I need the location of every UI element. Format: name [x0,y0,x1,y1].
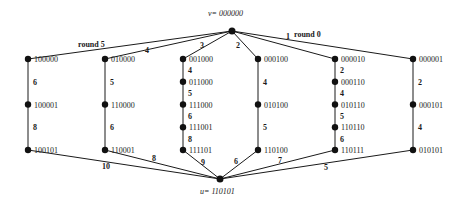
node-label: 110001 [111,146,135,155]
edge-label: 8 [188,135,192,144]
node [332,101,338,107]
node-label: 100101 [34,146,58,155]
node-label: 011000 [189,78,213,87]
labels-layer: 68100000100001100101round 51056010000110… [33,30,443,172]
top-edge-label: 4 [145,46,149,55]
node-label: 010100 [264,101,288,110]
node-label: 000110 [341,78,365,87]
node [332,56,338,62]
top-edge-label: 3 [200,41,204,50]
edge-label: 4 [340,89,344,98]
bottom-edge-label: 8 [152,154,156,163]
node [25,56,31,62]
top-edge-label: round 5 [78,40,105,49]
edge-label: 4 [418,123,422,132]
node [25,147,31,153]
edge-top-col-5 [232,31,413,59]
bottom-node [217,176,224,183]
node [180,147,186,153]
node [180,124,186,130]
node [255,147,261,153]
top-edge-label: 1 [286,32,290,41]
edge-label: 6 [110,123,114,132]
node-label: 110110 [341,123,364,132]
edge-label: 2 [340,66,344,75]
node [332,79,338,85]
node [102,147,108,153]
node [255,101,261,107]
edge-label: 5 [263,123,267,132]
node-label: 010110 [341,101,365,110]
node-label: 100000 [34,55,58,64]
node [180,79,186,85]
top-edge-label: 2 [236,41,240,50]
node-label: 110100 [264,146,288,155]
node-label: 010000 [111,55,135,64]
node [180,101,186,107]
node [102,101,108,107]
edge-label: 6 [188,112,192,121]
node [410,147,416,153]
node-label: 100001 [34,101,58,110]
edge-label: 5 [188,89,192,98]
node [332,124,338,130]
top-edge-label: round 0 [294,30,321,39]
edge-label: 5 [340,112,344,121]
edge-label: 5 [110,78,114,87]
edge-label: 4 [263,78,267,87]
edge-label: 6 [33,78,37,87]
node-label: 001000 [189,55,213,64]
node-label: 111101 [189,146,212,155]
node-label: 110111 [341,146,364,155]
top-node-label: v= 000000 [208,9,243,18]
edge-label: 6 [340,135,344,144]
bottom-edge-label: 6 [234,157,238,166]
edge-label: 8 [33,123,37,132]
node [255,56,261,62]
node [102,56,108,62]
node-label: 110000 [111,101,135,110]
node-label: 010101 [419,146,443,155]
top-node [229,28,236,35]
node [410,56,416,62]
edge-label: 4 [188,66,192,75]
node [332,147,338,153]
graph-diagram: v= 000000 u= 110101 68100000100001100101… [0,0,464,209]
bottom-edge-label: 10 [102,162,110,171]
edge-label: 2 [418,78,422,87]
node-label: 000001 [419,55,443,64]
node [180,56,186,62]
bottom-edge-label: 7 [278,156,282,165]
node-label: 111000 [189,101,212,110]
node-label: 000101 [419,101,443,110]
bottom-node-label: u= 110101 [200,187,235,196]
bottom-edge-label: 5 [324,163,328,172]
node-label: 000100 [264,55,288,64]
node [410,101,416,107]
node-label: 000010 [341,55,365,64]
bottom-edge-label: 9 [201,158,205,167]
node-label: 111001 [189,123,212,132]
node [25,101,31,107]
